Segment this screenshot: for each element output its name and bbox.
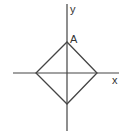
- vertex-a-label: A: [70, 33, 78, 45]
- y-axis-label: y: [70, 3, 76, 15]
- diagram-canvas: y x A: [0, 0, 130, 138]
- x-axis-label: x: [112, 74, 118, 86]
